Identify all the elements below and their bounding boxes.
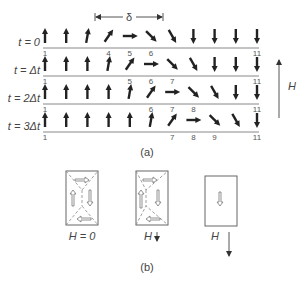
spin-arrow-icon xyxy=(145,84,159,100)
spin-arrow-icon xyxy=(230,112,243,128)
spin-arrow-icon xyxy=(84,84,90,99)
spin-arrow-icon xyxy=(84,56,90,71)
spin-arrow-icon xyxy=(63,84,69,99)
panel-label-h-small: H xyxy=(144,230,152,242)
time-label: t = Δt xyxy=(14,64,41,76)
position-tick-label: 1 xyxy=(43,133,48,142)
field-arrow-up: H xyxy=(279,60,296,118)
domain-wall-diagram: δ t = 0145611t = Δt156711t = 2Δt167811t … xyxy=(0,0,302,282)
spin-row: t = Δt156711 xyxy=(14,56,262,86)
spin-arrow-icon xyxy=(127,112,133,127)
spin-row: t = 2Δt167811 xyxy=(8,84,262,114)
spin-arrow-icon xyxy=(102,28,116,44)
spin-arrow-icon xyxy=(63,112,69,127)
spin-arrow-icon xyxy=(63,56,69,71)
position-tick-label: 5 xyxy=(128,77,133,86)
spin-arrow-icon xyxy=(123,56,137,72)
spin-arrow-icon xyxy=(106,112,112,127)
position-tick-label: 4 xyxy=(106,49,111,58)
spin-arrow-icon xyxy=(144,61,159,67)
position-tick-label: 5 xyxy=(128,49,133,58)
field-label: H xyxy=(288,80,296,92)
spin-arrow-icon xyxy=(209,84,222,100)
spin-rows: t = 0145611t = Δt156711t = 2Δt167811t = … xyxy=(8,28,262,142)
position-tick-label: 7 xyxy=(170,105,175,114)
position-tick-label: 6 xyxy=(149,77,154,86)
spin-arrow-icon xyxy=(165,57,180,72)
spin-arrow-icon xyxy=(254,85,260,100)
spin-arrow-icon xyxy=(233,85,239,100)
spin-arrow-icon xyxy=(165,89,180,95)
spin-arrow-icon xyxy=(166,112,180,128)
spin-arrow-icon xyxy=(123,33,138,39)
spin-arrow-icon xyxy=(254,29,260,44)
spin-arrow-icon xyxy=(233,57,239,72)
domain-panel-h-small: H xyxy=(136,171,168,242)
spin-row: t = 0145611 xyxy=(18,28,261,58)
spin-arrow-icon xyxy=(208,113,223,128)
spin-arrow-icon xyxy=(186,85,201,100)
position-tick-label: 11 xyxy=(253,133,262,142)
spin-arrow-icon xyxy=(63,28,69,43)
spin-arrow-icon xyxy=(83,28,92,44)
spin-arrow-icon xyxy=(212,29,218,44)
domain-panel-h-zero: H = 0 xyxy=(66,171,98,242)
spin-arrow-icon xyxy=(84,112,90,127)
spin-arrow-icon xyxy=(42,28,48,43)
spin-arrow-icon xyxy=(187,56,200,72)
spin-arrow-icon xyxy=(166,28,179,44)
spin-arrow-icon xyxy=(186,117,201,123)
domain-panel-h-large: H xyxy=(205,176,237,256)
spin-row: t = 3Δt178911 xyxy=(8,112,262,142)
spin-arrow-icon xyxy=(212,57,218,72)
position-tick-label: 6 xyxy=(149,49,154,58)
position-tick-label: 8 xyxy=(191,105,196,114)
position-tick-label: 11 xyxy=(253,49,262,58)
spin-arrow-icon xyxy=(144,29,159,44)
spin-arrow-icon xyxy=(106,84,112,99)
spin-arrow-icon xyxy=(190,29,196,44)
position-tick-label: 8 xyxy=(191,133,196,142)
spin-arrow-icon xyxy=(42,112,48,127)
position-tick-label: 6 xyxy=(149,105,154,114)
caption-a: (a) xyxy=(140,146,153,158)
spin-arrow-icon xyxy=(233,29,239,44)
position-tick-label: 9 xyxy=(212,133,217,142)
position-tick-label: 11 xyxy=(253,77,262,86)
time-label: t = 2Δt xyxy=(8,92,41,104)
position-tick-label: 7 xyxy=(170,133,175,142)
spin-arrow-icon xyxy=(254,57,260,72)
time-label: t = 0 xyxy=(18,36,41,48)
delta-label: δ xyxy=(126,11,132,23)
time-label: t = 3Δt xyxy=(8,120,41,132)
panel-label-h-large: H xyxy=(211,230,219,242)
spin-arrow-icon xyxy=(42,56,48,71)
panel-label-h-zero: H = 0 xyxy=(69,230,96,242)
caption-b: (b) xyxy=(140,261,153,273)
spin-arrow-icon xyxy=(254,113,260,128)
delta-span: δ xyxy=(95,11,163,23)
spin-arrow-icon xyxy=(42,84,48,99)
position-tick-label: 11 xyxy=(253,105,262,114)
position-tick-label: 7 xyxy=(170,77,175,86)
